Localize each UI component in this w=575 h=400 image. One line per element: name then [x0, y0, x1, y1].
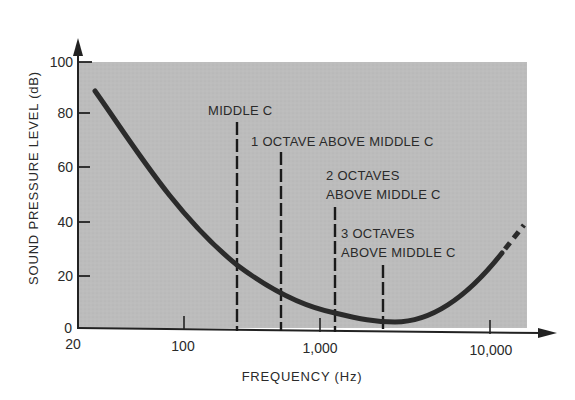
annotation-middle-c: MIDDLE C [208, 103, 273, 118]
y-axis-title: SOUND PRESSURE LEVEL (dB) [26, 71, 41, 285]
y-tick-100: 100 [50, 54, 74, 70]
y-tick-80: 80 [57, 105, 73, 121]
x-axis [77, 328, 542, 333]
hearing-threshold-chart: 100 80 60 40 20 0 20 100 1,000 10,000 MI… [0, 0, 575, 400]
x-tick-labels: 20 100 1,000 10,000 [65, 336, 512, 358]
x-axis-title: FREQUENCY (Hz) [242, 369, 363, 384]
y-tick-60: 60 [57, 159, 73, 175]
y-tick-0: 0 [64, 320, 72, 336]
x-tick-20: 20 [65, 336, 81, 352]
annotation-3-octaves-line1: 3 OCTAVES [341, 226, 415, 241]
plot-area [78, 62, 527, 328]
annotation-3-octaves-line2: ABOVE MIDDLE C [341, 245, 456, 260]
annotation-2-octaves-line2: ABOVE MIDDLE C [326, 187, 441, 202]
annotation-1-octave: 1 OCTAVE ABOVE MIDDLE C [251, 134, 434, 149]
y-axis-arrow-icon [73, 38, 83, 56]
y-tick-20: 20 [57, 268, 73, 284]
x-tick-100: 100 [171, 338, 195, 354]
x-tick-1000: 1,000 [302, 340, 337, 356]
y-tick-40: 40 [57, 214, 73, 230]
x-tick-10000: 10,000 [470, 342, 513, 358]
x-axis-arrow-icon [538, 328, 557, 338]
y-tick-labels: 100 80 60 40 20 0 [50, 54, 74, 336]
annotation-2-octaves-line1: 2 OCTAVES [326, 168, 400, 183]
